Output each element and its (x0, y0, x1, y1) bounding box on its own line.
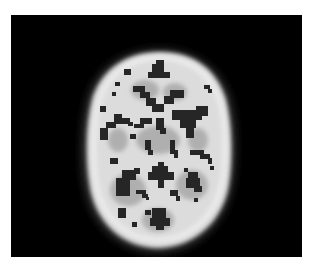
scan-frame (11, 15, 302, 257)
brain-scan-image (11, 15, 302, 257)
